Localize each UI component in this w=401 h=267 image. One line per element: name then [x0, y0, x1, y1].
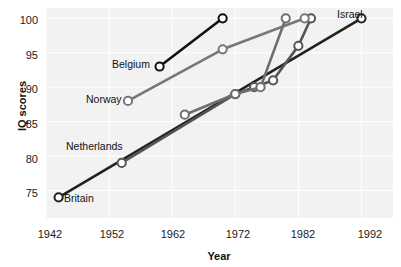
series-britain: [55, 14, 366, 201]
y-axis-title: IQ scores: [16, 70, 28, 142]
x-tick-1952: 1952: [92, 228, 132, 240]
gridlines: [46, 8, 393, 218]
series-line: [59, 18, 362, 197]
series-line: [160, 18, 223, 66]
data-point-marker: [124, 97, 132, 105]
x-tick-1992: 1992: [350, 228, 390, 240]
iq-scores-line-chart: 100 95 90 85 80 75 1942 1952 1962 1972 1…: [0, 0, 401, 267]
data-point-marker: [181, 111, 189, 119]
series-label-norway: Norway: [86, 93, 122, 105]
data-point-marker: [282, 14, 290, 22]
series-label-britain: Britain: [64, 192, 94, 204]
series-label-belgium: Belgium: [112, 58, 150, 70]
data-point-marker: [118, 159, 126, 167]
y-tick-75: 75: [10, 187, 38, 199]
y-tick-80: 80: [10, 153, 38, 165]
series-belgium: [155, 14, 226, 70]
x-tick-1982: 1982: [283, 228, 323, 240]
series-label-netherlands: Netherlands: [66, 140, 123, 152]
data-point-marker: [231, 90, 239, 98]
series-layer: [55, 14, 366, 201]
y-tick-100: 100: [10, 14, 38, 26]
series-label-israel: Israel: [337, 8, 363, 20]
series-line: [122, 18, 311, 163]
data-point-marker: [294, 42, 302, 50]
data-point-marker: [301, 14, 309, 22]
data-point-marker: [155, 62, 163, 70]
series-line: [128, 18, 305, 101]
x-tick-1962: 1962: [153, 228, 193, 240]
data-point-marker: [256, 83, 264, 91]
x-axis-title: Year: [199, 250, 239, 262]
data-point-marker: [219, 14, 227, 22]
x-tick-1972: 1972: [218, 228, 258, 240]
y-tick-95: 95: [10, 49, 38, 61]
data-point-marker: [269, 76, 277, 84]
data-point-marker: [219, 45, 227, 53]
x-tick-1942: 1942: [30, 228, 70, 240]
data-point-marker: [55, 193, 63, 201]
chart-canvas: [0, 0, 401, 267]
